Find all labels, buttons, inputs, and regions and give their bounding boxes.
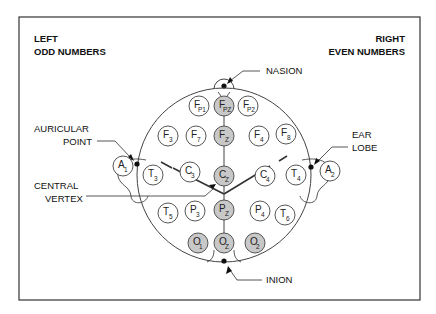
- electrode-subscript: 4: [260, 136, 264, 143]
- electrode-subscript: 3: [169, 136, 173, 143]
- electrode-fp2: FP2: [238, 96, 258, 116]
- electrode-subscript: 3: [196, 211, 200, 218]
- electrode-subscript: P2: [247, 106, 255, 113]
- electrode-subscript: 6: [286, 215, 290, 222]
- auricular-label-2: POINT: [63, 136, 92, 147]
- electrode-p4: P4: [250, 201, 270, 221]
- electrode-t5: T5: [158, 203, 178, 223]
- electrode-subscript: 8: [287, 134, 291, 141]
- electrode-subscript: 1: [199, 243, 203, 250]
- inion-dot: [221, 258, 226, 263]
- electrode-pz: PZ: [214, 200, 234, 220]
- central-label-1: CENTRAL: [34, 180, 78, 191]
- electrode-p3: P3: [185, 201, 205, 221]
- earlobe-label-2: LOBE: [352, 142, 377, 153]
- electrode-subscript: 3: [191, 172, 195, 179]
- electrode-a2: A2: [320, 161, 340, 181]
- electrode-c3: C3: [180, 162, 200, 182]
- auricular-label-1: AURICULAR: [34, 123, 89, 134]
- right-heading: RIGHT: [375, 33, 405, 44]
- electrode-fpz: FPZ: [214, 96, 234, 116]
- left-auricular-dot: [134, 161, 139, 166]
- electrode-subscript: 4: [266, 176, 270, 183]
- electrode-o1: O1: [188, 233, 208, 253]
- diagram-frame: [19, 17, 420, 300]
- electrode-subscript: PZ: [223, 106, 231, 113]
- electrode-f7: F7: [186, 126, 206, 146]
- electrode-subscript: 5: [169, 213, 173, 220]
- electrode-o2: O2: [245, 233, 265, 253]
- inion-label: INION: [266, 274, 293, 285]
- electrode-cz: CZ: [214, 166, 234, 186]
- electrode-subscript: 7: [197, 136, 201, 143]
- electrode-subscript: Z: [225, 210, 229, 217]
- electrode-subscript: 3: [154, 175, 158, 182]
- electrode-subscript: 4: [297, 175, 301, 182]
- electrode-t4: T4: [286, 165, 306, 185]
- earlobe-label-1: EAR: [352, 129, 372, 140]
- electrode-fp1: FP1: [189, 96, 209, 116]
- electrode-subscript: Z: [225, 243, 229, 250]
- electrode-subscript: 4: [261, 211, 265, 218]
- central-label-2: VERTEX: [45, 193, 84, 204]
- electrode-subscript: 2: [256, 243, 260, 250]
- electrode-f3: F3: [158, 126, 178, 146]
- nasion-label: NASION: [266, 65, 303, 76]
- electrode-a1: A1: [113, 156, 133, 176]
- electrode-fz: FZ: [214, 126, 234, 146]
- eeg-10-20-diagram: LEFT ODD NUMBERS RIGHT EVEN NUMBERS NASI…: [0, 0, 436, 314]
- electrode-oz: OZ: [214, 233, 234, 253]
- left-heading: LEFT: [34, 33, 58, 44]
- left-subheading: ODD NUMBERS: [34, 46, 106, 57]
- right-subheading: EVEN NUMBERS: [328, 46, 405, 57]
- electrode-f4: F4: [249, 126, 269, 146]
- electrode-subscript: P1: [198, 106, 206, 113]
- electrode-c4: C4: [255, 166, 275, 186]
- right-earlobe-dot: [308, 164, 313, 169]
- electrode-t3: T3: [143, 165, 163, 185]
- electrode-f8: F8: [276, 124, 296, 144]
- electrode-t6: T6: [275, 205, 295, 225]
- electrode-subscript: Z: [225, 176, 229, 183]
- electrode-subscript: 1: [124, 166, 128, 173]
- electrode-subscript: Z: [225, 136, 229, 143]
- electrode-subscript: 2: [331, 171, 335, 178]
